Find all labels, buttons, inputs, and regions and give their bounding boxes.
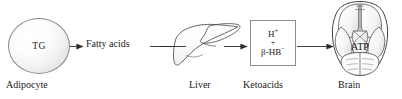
metabolism-pathway-diagram: TG Fatty acids H+ + β-HB− Adipocyte Live… [0,0,402,99]
fatty-acids-label: Fatty acids [86,38,130,49]
adipocyte-cell: TG [8,18,70,74]
ketoacid-species-betahydroxybutyrate: β-HB− [261,47,285,57]
hydrogen-charge: + [274,27,278,34]
brain-left-frontal-lobe [339,4,359,38]
caption-liver: Liver [189,79,211,90]
caption-brain: Brain [338,79,360,90]
brain-left-temporal-lobe [335,27,352,59]
liver-right-lobe [201,24,240,44]
adipocyte-tg-label: TG [32,41,45,51]
brain-brainstem [352,31,368,53]
ketoacids-box: H+ + β-HB− [250,20,296,66]
brain-optic-chiasm [354,31,367,43]
caption-adipocyte: Adipocyte [6,79,48,90]
brain-organ: ATP [332,2,387,76]
brain-cerebellar-folia [346,59,374,70]
caption-ketoacids: Ketoacids [243,79,283,90]
brain-right-frontal-lobe [361,4,381,38]
beta-hb-charge: − [281,45,285,52]
adipocyte-cell-body: TG [8,18,70,74]
liver-gallbladder-notch [186,55,203,57]
brain-atp-label: ATP [351,41,369,52]
liver-organ [173,24,239,65]
brain-frontal-sulci [355,6,365,10]
liver-fissure-line [203,43,216,46]
liver-left-lobe [173,24,238,65]
brain-cerebellum [341,53,379,76]
beta-hb-symbol: β-HB [261,47,281,57]
brain-outline [332,2,387,76]
brain-right-temporal-lobe [368,27,385,59]
